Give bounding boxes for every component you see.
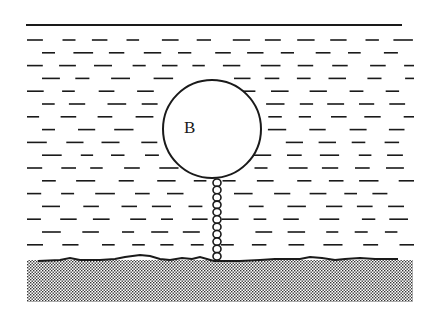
ball-b — [163, 80, 261, 178]
diagram-canvas: B — [0, 0, 434, 322]
chain — [213, 179, 221, 260]
seabed — [27, 255, 413, 302]
ball-label: B — [184, 118, 195, 137]
